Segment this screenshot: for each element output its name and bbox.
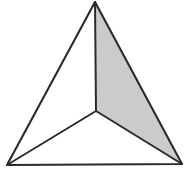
spoke-to-apex	[95, 2, 96, 111]
subdivided-triangle-figure	[0, 0, 192, 171]
